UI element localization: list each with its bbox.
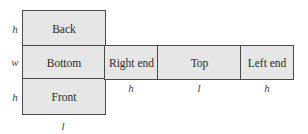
dim-below-right-end: h [128, 82, 134, 94]
dim-left-back: h [12, 23, 18, 35]
dim-left-front: h [12, 91, 18, 103]
dim-below-top: l [197, 82, 200, 94]
panel-right-end: Right end [104, 45, 159, 80]
panel-front-label: Front [52, 91, 77, 103]
dim-below-front: l [61, 120, 64, 132]
panel-top: Top [157, 45, 242, 80]
dim-left-bottom: w [11, 56, 18, 68]
dim-below-left-end: h [264, 82, 270, 94]
panel-back-label: Back [52, 23, 76, 35]
panel-back: Back [22, 10, 106, 47]
panel-top-label: Top [191, 57, 209, 69]
panel-left-end-label: Left end [248, 57, 287, 69]
panel-bottom-label: Bottom [47, 57, 82, 69]
panel-bottom: Bottom [22, 45, 106, 80]
panel-left-end: Left end [240, 45, 294, 80]
panel-front: Front [22, 78, 106, 115]
panel-right-end-label: Right end [109, 57, 154, 69]
